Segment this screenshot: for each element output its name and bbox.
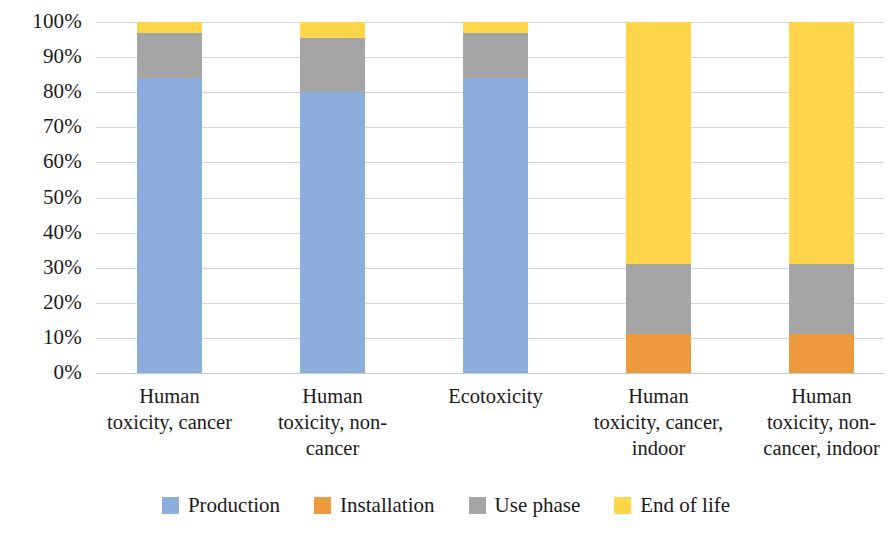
legend-swatch-icon <box>162 497 179 514</box>
y-axis-tick-label: 70% <box>0 116 82 137</box>
legend-item[interactable]: Production <box>162 494 280 517</box>
y-axis-tick-label: 60% <box>0 151 82 172</box>
y-axis-tick-label: 0% <box>0 362 82 383</box>
y-axis-tick-label: 30% <box>0 257 82 278</box>
bar-segment <box>463 22 528 33</box>
bar-segment <box>463 78 528 373</box>
x-axis-category-label: Human toxicity, cancer, indoor <box>564 383 754 461</box>
bar-column <box>626 22 691 373</box>
legend-item[interactable]: Installation <box>314 494 434 517</box>
y-axis-tick-label: 90% <box>0 46 82 67</box>
legend-label: Production <box>188 494 280 517</box>
bar-column <box>463 22 528 373</box>
legend-swatch-icon <box>614 497 631 514</box>
bar-segment <box>137 22 202 33</box>
bar-segment <box>789 264 854 334</box>
y-axis-tick-label: 20% <box>0 292 82 313</box>
legend-swatch-icon <box>314 497 331 514</box>
bar-segment <box>626 334 691 373</box>
bar-column <box>300 22 365 373</box>
x-axis-category-label: Human toxicity, cancer <box>75 383 265 435</box>
x-axis: Human toxicity, cancerHuman toxicity, no… <box>0 383 892 483</box>
y-axis: 0%10%20%30%40%50%60%70%80%90%100% <box>0 0 88 395</box>
y-axis-tick-label: 50% <box>0 187 82 208</box>
bar-segment <box>300 38 365 92</box>
bar-segment <box>789 22 854 264</box>
y-axis-tick-label: 80% <box>0 81 82 102</box>
bar-segment <box>463 33 528 79</box>
legend-item[interactable]: End of life <box>614 494 730 517</box>
y-axis-tick-label: 10% <box>0 327 82 348</box>
plot-area <box>96 22 884 373</box>
legend-label: Installation <box>340 494 434 517</box>
y-axis-tick-label: 40% <box>0 222 82 243</box>
bar-segment <box>626 22 691 264</box>
bar-segment <box>300 92 365 373</box>
bar-segment <box>789 334 854 373</box>
bar-segment <box>137 78 202 373</box>
stacked-bar-chart: 0%10%20%30%40%50%60%70%80%90%100% Human … <box>0 0 892 537</box>
y-axis-tick-label: 100% <box>0 11 82 32</box>
x-axis-category-label: Ecotoxicity <box>401 383 591 409</box>
chart-legend: ProductionInstallationUse phaseEnd of li… <box>0 494 892 517</box>
bar-column <box>137 22 202 373</box>
bar-segment <box>137 33 202 79</box>
legend-label: Use phase <box>495 494 581 517</box>
bar-column <box>789 22 854 373</box>
bar-segment <box>300 22 365 38</box>
legend-swatch-icon <box>469 497 486 514</box>
x-axis-category-label: Human toxicity, non- cancer <box>238 383 428 461</box>
bar-segment <box>626 264 691 334</box>
legend-item[interactable]: Use phase <box>469 494 581 517</box>
legend-label: End of life <box>640 494 730 517</box>
axis-baseline <box>96 373 884 374</box>
x-axis-category-label: Human toxicity, non- cancer, indoor <box>727 383 892 461</box>
